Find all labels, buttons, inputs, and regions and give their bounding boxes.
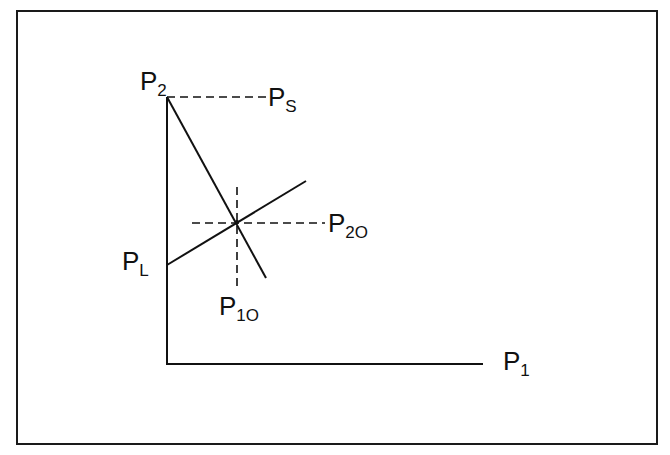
label-p2o: P2O [328, 210, 368, 241]
label-p1o: P1O [219, 293, 259, 324]
intersection-point [235, 220, 239, 224]
label-pl: PL [122, 248, 149, 279]
label-p1: P1 [503, 348, 530, 379]
descending-line [167, 97, 266, 278]
label-p2: P2 [140, 68, 167, 99]
label-ps: PS [268, 84, 297, 115]
